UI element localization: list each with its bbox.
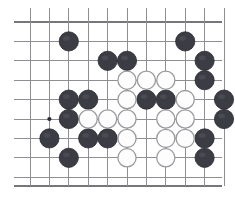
stone-black-6[interactable] [59, 90, 78, 109]
hoshi-point-0 [47, 117, 51, 121]
stone-white-4[interactable] [176, 91, 194, 109]
stone-white-1[interactable] [137, 71, 155, 89]
stone-black-body-16[interactable] [195, 129, 214, 148]
stone-black-body-5[interactable] [195, 71, 214, 90]
stone-black-body-12[interactable] [214, 109, 233, 128]
stone-black-highlight-3 [121, 55, 128, 60]
go-board-canvas[interactable] [0, 0, 235, 203]
stone-white-13[interactable] [118, 149, 136, 167]
stone-white-3[interactable] [118, 91, 136, 109]
stone-black-1[interactable] [176, 32, 195, 51]
go-board-diagram [0, 0, 235, 203]
stone-black-highlight-4 [199, 55, 206, 60]
stone-black-highlight-17 [63, 152, 70, 157]
stone-black-body-7[interactable] [79, 90, 98, 109]
stone-black-16[interactable] [195, 129, 214, 148]
stone-black-11[interactable] [59, 109, 78, 128]
stone-white-8[interactable] [157, 110, 175, 128]
stone-black-body-6[interactable] [59, 90, 78, 109]
stone-white-14[interactable] [157, 149, 175, 167]
stone-white-0[interactable] [118, 71, 136, 89]
hoshi-layer [47, 117, 51, 121]
stone-black-4[interactable] [195, 51, 214, 70]
stone-black-0[interactable] [59, 32, 78, 51]
stone-black-body-18[interactable] [195, 148, 214, 167]
stone-white-11[interactable] [157, 129, 175, 147]
stone-black-highlight-16 [199, 133, 206, 138]
stone-black-highlight-8 [141, 94, 148, 99]
stone-black-highlight-10 [218, 94, 225, 99]
stone-black-12[interactable] [214, 109, 233, 128]
stone-black-body-0[interactable] [59, 32, 78, 51]
stone-black-body-10[interactable] [214, 90, 233, 109]
stone-black-3[interactable] [117, 51, 136, 70]
stone-black-2[interactable] [98, 51, 117, 70]
stone-black-5[interactable] [195, 71, 214, 90]
stone-black-9[interactable] [156, 90, 175, 109]
stone-black-body-8[interactable] [137, 90, 156, 109]
stone-black-body-3[interactable] [117, 51, 136, 70]
stone-black-highlight-9 [160, 94, 167, 99]
stone-white-5[interactable] [79, 110, 97, 128]
stone-black-8[interactable] [137, 90, 156, 109]
stone-white-2[interactable] [157, 71, 175, 89]
stone-white-12[interactable] [176, 129, 194, 147]
stone-black-17[interactable] [59, 148, 78, 167]
stone-black-highlight-5 [199, 75, 206, 80]
stone-black-highlight-7 [82, 94, 89, 99]
stone-black-body-13[interactable] [40, 129, 59, 148]
stone-black-body-14[interactable] [79, 129, 98, 148]
stone-white-9[interactable] [176, 110, 194, 128]
stone-black-18[interactable] [195, 148, 214, 167]
stone-black-highlight-15 [102, 133, 109, 138]
stone-black-15[interactable] [98, 129, 117, 148]
stone-black-highlight-0 [63, 36, 70, 41]
stone-black-highlight-2 [102, 55, 109, 60]
stone-black-highlight-13 [44, 133, 51, 138]
stone-white-10[interactable] [118, 129, 136, 147]
stone-black-body-1[interactable] [176, 32, 195, 51]
stone-white-7[interactable] [118, 110, 136, 128]
stone-black-13[interactable] [40, 129, 59, 148]
stone-black-highlight-14 [82, 133, 89, 138]
stone-black-7[interactable] [79, 90, 98, 109]
stone-black-body-4[interactable] [195, 51, 214, 70]
stone-black-highlight-11 [63, 114, 70, 119]
stone-black-highlight-12 [218, 114, 225, 119]
stone-black-highlight-1 [179, 36, 186, 41]
stone-black-body-9[interactable] [156, 90, 175, 109]
stone-black-body-17[interactable] [59, 148, 78, 167]
stone-black-10[interactable] [214, 90, 233, 109]
stone-black-14[interactable] [79, 129, 98, 148]
stone-black-body-2[interactable] [98, 51, 117, 70]
stone-black-highlight-18 [199, 152, 206, 157]
stone-white-6[interactable] [99, 110, 117, 128]
stone-black-highlight-6 [63, 94, 70, 99]
stone-black-body-15[interactable] [98, 129, 117, 148]
stone-black-body-11[interactable] [59, 109, 78, 128]
